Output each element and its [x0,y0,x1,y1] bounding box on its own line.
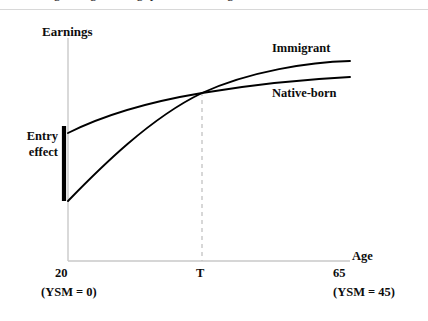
x-tick-sublabel-ysm-45: (YSM = 45) [333,285,395,300]
figure-container: Figure: Age-earnings profiles of immigra… [0,0,428,321]
x-axis-title: Age [352,249,373,264]
x-tick-label-65: 65 [333,266,346,281]
y-axis-title: Earnings [42,24,93,39]
immigrant-curve [68,61,350,201]
entry-effect-annotation: Entry effect [12,129,58,160]
series-label-native-born: Native-born [272,86,337,101]
entry-effect-line-1: Entry [12,129,58,145]
x-tick-label-20: 20 [55,266,68,281]
x-tick-label-t: T [196,266,204,281]
series-label-immigrant: Immigrant [272,41,330,56]
entry-effect-line-2: effect [12,145,58,161]
x-tick-sublabel-ysm-0: (YSM = 0) [41,285,97,300]
